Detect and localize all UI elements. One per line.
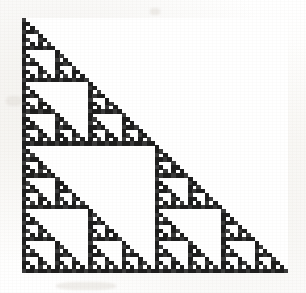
scan-smudge: [56, 282, 116, 290]
matrix-canvas: [22, 18, 288, 273]
scan-smudge: [150, 8, 160, 15]
matrix-spy-plot: [22, 18, 288, 273]
scan-smudge: [6, 96, 22, 106]
figure-root: [0, 0, 306, 293]
